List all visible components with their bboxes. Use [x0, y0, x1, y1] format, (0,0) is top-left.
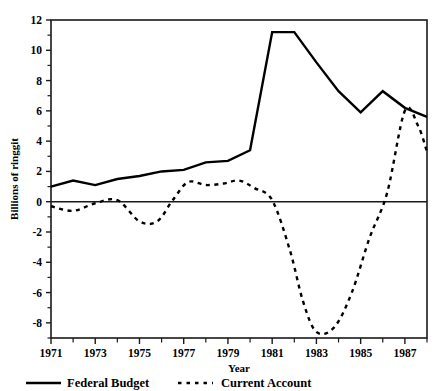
x-tick-label: 1985 [349, 347, 372, 359]
y-tick-label: 2 [36, 165, 42, 177]
y-tick-label: -4 [32, 256, 42, 268]
legend-label-current-account: Current Account [221, 376, 312, 390]
x-axis-ticks: 197119731975197719791981198319851987 [40, 338, 428, 359]
y-axis-title: Billions of ringgit [8, 138, 20, 220]
y-tick-label: 4 [36, 135, 42, 147]
y-tick-label: 12 [31, 14, 43, 26]
x-tick-label: 1971 [40, 347, 63, 359]
x-tick-label: 1987 [393, 347, 416, 359]
line-chart: 121086420-2-4-6-8 1971197319751977197919… [0, 0, 438, 391]
y-tick-label: 10 [31, 44, 43, 56]
chart-legend: Federal Budget Current Account [26, 376, 312, 390]
x-tick-label: 1979 [216, 347, 239, 359]
y-tick-label: 0 [36, 196, 42, 208]
y-tick-label: -8 [32, 317, 42, 329]
y-tick-label: 6 [36, 105, 42, 117]
x-tick-label: 1981 [261, 347, 284, 359]
y-tick-label: 8 [36, 75, 42, 87]
x-tick-label: 1975 [128, 347, 151, 359]
y-tick-label: -2 [32, 226, 42, 238]
plot-frame [51, 20, 427, 338]
y-axis-ticks: 121086420-2-4-6-8 [31, 14, 52, 338]
x-tick-label: 1977 [172, 347, 195, 359]
legend-label-federal-budget: Federal Budget [67, 376, 150, 390]
y-tick-label: -6 [32, 287, 42, 299]
x-tick-label: 1983 [305, 347, 328, 359]
plot-area-border [51, 20, 427, 338]
x-tick-label: 1973 [84, 347, 107, 359]
x-axis-title: Year [228, 362, 250, 374]
chart-figure: 121086420-2-4-6-8 1971197319751977197919… [0, 0, 438, 391]
